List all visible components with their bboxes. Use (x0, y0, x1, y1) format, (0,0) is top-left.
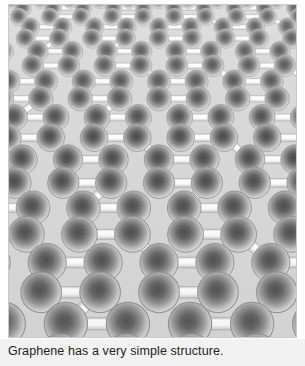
carbon-atom (94, 55, 116, 77)
carbon-atom (123, 124, 151, 152)
carbon-atom (130, 55, 152, 77)
carbon-atom (143, 167, 175, 199)
carbon-atom (116, 29, 136, 49)
carbon-atom (147, 86, 172, 111)
carbon-atom (167, 124, 195, 152)
carbon-atom (149, 29, 169, 49)
carbon-atom (191, 167, 223, 199)
carbon-atom (9, 302, 25, 337)
carbon-atom (9, 70, 20, 93)
carbon-atom (168, 216, 204, 252)
figure-page: Graphene has a very simple structure. (0, 0, 305, 366)
carbon-atom (202, 55, 224, 77)
atom-layer (9, 5, 296, 337)
carbon-atom (151, 5, 167, 9)
figure-caption: Graphene has a very simple structure. (8, 344, 297, 359)
carbon-atom (290, 104, 296, 130)
carbon-atom (107, 86, 132, 111)
carbon-atom (115, 216, 151, 252)
carbon-atom (293, 302, 296, 337)
graphene-figure (8, 4, 297, 338)
carbon-atom (135, 8, 153, 26)
carbon-atom (166, 55, 188, 77)
carbon-atom (80, 124, 108, 152)
carbon-atom (166, 8, 184, 26)
carbon-atom (9, 41, 14, 62)
graphene-lattice-illustration (9, 5, 296, 337)
carbon-atom (186, 86, 211, 111)
carbon-atom (95, 167, 127, 199)
carbon-atom (9, 243, 10, 281)
carbon-atom (210, 124, 238, 152)
carbon-atom (183, 29, 203, 49)
carbon-atom (139, 272, 180, 313)
